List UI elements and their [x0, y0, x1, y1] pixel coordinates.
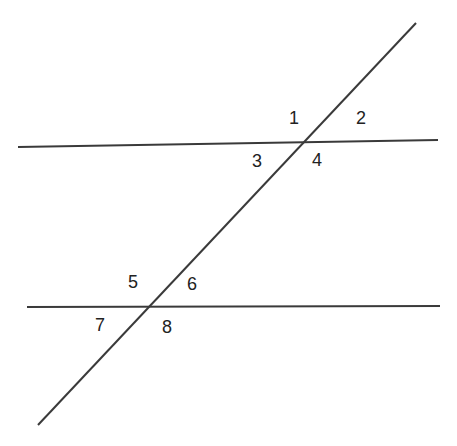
- transversal-line: [38, 23, 416, 425]
- angle-label-1: 1: [289, 108, 299, 128]
- angle-label-8: 8: [162, 317, 172, 337]
- angle-label-3: 3: [252, 151, 262, 171]
- upper-parallel-line: [18, 140, 438, 147]
- angle-label-5: 5: [128, 272, 138, 292]
- lower-parallel-line: [27, 306, 440, 307]
- angle-label-6: 6: [187, 274, 197, 294]
- angle-label-4: 4: [312, 150, 322, 170]
- angle-label-7: 7: [95, 315, 105, 335]
- angle-label-2: 2: [356, 108, 366, 128]
- transversal-diagram: 1 2 3 4 5 6 7 8: [0, 0, 457, 446]
